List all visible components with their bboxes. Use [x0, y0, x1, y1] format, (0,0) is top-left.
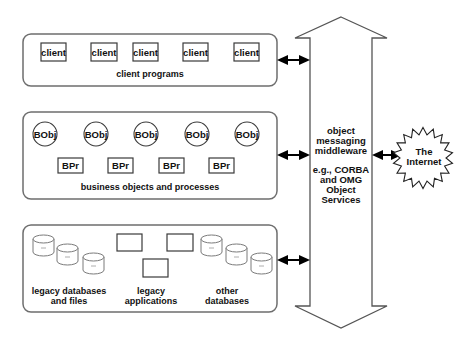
connector-client-middleware — [277, 55, 310, 65]
legacy-databases-label: legacy databases — [32, 286, 107, 296]
legacy-application-box — [167, 234, 193, 251]
other-database-icon — [251, 253, 272, 274]
business-process-box: BPr — [159, 158, 184, 173]
legacy-database-icon — [33, 235, 54, 256]
client-label: client — [92, 47, 118, 58]
client-box: client — [91, 43, 117, 61]
architecture-diagram: client client client client client clien… — [0, 0, 465, 338]
business-object-circle: BObj — [33, 122, 57, 146]
client-programs-label: client programs — [116, 69, 184, 79]
client-box: client — [41, 43, 67, 61]
business-object-circle: BObj — [235, 122, 259, 146]
bpr-label: BPr — [163, 160, 180, 171]
connector-legacy-middleware — [277, 255, 310, 265]
internet-label-2: Internet — [407, 156, 443, 167]
client-label: client — [41, 47, 67, 58]
other-databases-label-2: databases — [205, 296, 249, 306]
business-object-circle: BObj — [134, 122, 158, 146]
legacy-database-icon — [83, 253, 104, 274]
business-process-box: BPr — [58, 158, 83, 173]
business-process-box: BPr — [108, 158, 133, 173]
client-programs-panel: client client client client client clien… — [23, 34, 277, 86]
bobj-label: BObj — [236, 129, 259, 140]
legacy-application-box — [117, 234, 142, 251]
bobj-label: BObj — [85, 129, 108, 140]
client-box: client — [234, 43, 260, 61]
internet-starburst: The Internet — [394, 127, 453, 188]
legacy-database-icon — [57, 244, 78, 265]
bobj-label: BObj — [135, 129, 158, 140]
middleware-example-line: Services — [321, 194, 360, 205]
legacy-panel: legacy databases and files legacy applic… — [23, 225, 277, 312]
business-object-circle: BObj — [185, 122, 209, 146]
bobj-label: BObj — [186, 129, 209, 140]
business-objects-label: business objects and processes — [81, 182, 220, 192]
legacy-applications-label-2: applications — [125, 296, 178, 306]
bobj-label: BObj — [34, 129, 57, 140]
business-process-box: BPr — [209, 158, 234, 173]
legacy-databases-label-2: and files — [51, 296, 88, 306]
other-databases-label: other — [216, 286, 239, 296]
client-box: client — [183, 43, 209, 61]
client-label: client — [183, 47, 209, 58]
connector-business-middleware — [277, 150, 310, 160]
middleware-line: middleware — [315, 145, 367, 156]
legacy-application-box — [143, 259, 168, 277]
other-database-icon — [201, 235, 222, 256]
client-box: client — [133, 43, 159, 61]
bpr-label: BPr — [62, 160, 79, 171]
other-database-icon — [226, 244, 247, 265]
business-object-circle: BObj — [84, 122, 108, 146]
legacy-applications-label: legacy — [137, 286, 165, 296]
bpr-label: BPr — [213, 160, 230, 171]
client-label: client — [133, 47, 159, 58]
client-label: client — [234, 47, 260, 58]
bpr-label: BPr — [112, 160, 129, 171]
business-objects-panel: BObj BObj BObj BObj BObj BPr BPr BPr — [23, 112, 277, 199]
